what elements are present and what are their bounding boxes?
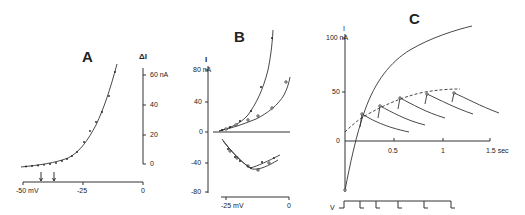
panel-b-points-filled — [221, 37, 275, 169]
panel-b-ytick: 80 nA — [193, 66, 212, 73]
panel-b-ytick: 0 — [199, 128, 203, 135]
panel-b-ytick: 40 — [194, 98, 202, 105]
panel-c-ytick: 50 — [332, 88, 340, 95]
panel-a-ylabel: ΔI — [139, 52, 147, 61]
panel-c-xtick: 1.5 sec — [486, 147, 509, 154]
figure: A ΔI 0 20 40 60 nA -50 mV -25 0 — [0, 0, 525, 215]
panel-c-curve-envelope — [345, 89, 460, 132]
panel-c-voltage-label: V — [330, 204, 335, 211]
panel-a-ytick: 0 — [150, 160, 154, 167]
panel-c-label: C — [409, 10, 420, 27]
panel-a-ytick: 40 — [150, 101, 158, 108]
panel-a-xtick: -50 mV — [16, 187, 39, 194]
panel-b-curve-outward-filled — [219, 30, 273, 131]
panel-c-ylabel: I — [343, 25, 345, 32]
panel-b-xtick: 0 — [287, 202, 291, 209]
panel-c-curve-rising — [345, 26, 472, 190]
panel-a-points — [25, 71, 116, 167]
panel-c-ytick: 100 nA — [326, 34, 349, 41]
panel-a-xtick: 0 — [141, 187, 145, 194]
panel-c-ytick: 0 — [336, 137, 340, 144]
panel-b-ytick: -40 — [191, 159, 201, 166]
panel-a: A ΔI 0 20 40 60 nA -50 mV -25 0 — [16, 48, 169, 194]
panel-c-voltage-trace — [339, 201, 455, 208]
panel-c: C I 100 nA 50 0 0.5 1 1.5 sec — [326, 10, 509, 211]
panel-c-xtick: 1 — [441, 147, 445, 154]
panel-a-curve — [21, 64, 117, 167]
panel-c-xtick: 0.5 — [388, 147, 398, 154]
arrow-icon — [53, 172, 56, 181]
panel-b-label: B — [234, 28, 245, 45]
panel-a-label: A — [82, 48, 93, 65]
arrow-icon — [40, 172, 43, 181]
panel-b-points-open — [225, 81, 287, 171]
panel-c-tail-currents — [360, 93, 499, 132]
panel-a-ytick: 20 — [150, 131, 158, 138]
panel-a-xtick: -25 — [77, 187, 87, 194]
panel-a-ytick: 60 nA — [150, 71, 169, 78]
panel-b-curve-inward-open — [223, 141, 278, 169]
panel-b-ylabel: I — [205, 55, 207, 64]
panel-b-xtick: -25 mV — [221, 202, 244, 209]
panel-b-ytick: -80 — [191, 188, 201, 195]
panel-b: B I 80 nA 40 0 -40 -80 -25 mV 0 — [191, 28, 291, 209]
